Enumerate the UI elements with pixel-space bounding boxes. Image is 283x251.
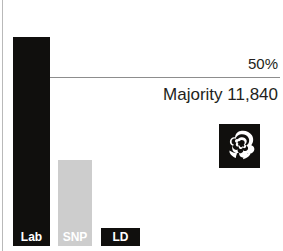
left-axis-rule	[2, 0, 3, 251]
bar-lab	[13, 37, 50, 246]
bar-key-ld: LD	[101, 228, 140, 246]
election-bar-chart: 50% Majority 11,840 Lab SNP LD	[0, 0, 283, 251]
labour-rose-emblem	[219, 124, 260, 168]
threshold-label: 50%	[248, 55, 278, 73]
bar-key-snp: SNP	[58, 228, 92, 246]
majority-label: Majority 11,840	[163, 84, 278, 105]
bar-key-lab: Lab	[13, 228, 50, 246]
fifty-percent-threshold-line	[48, 77, 280, 78]
